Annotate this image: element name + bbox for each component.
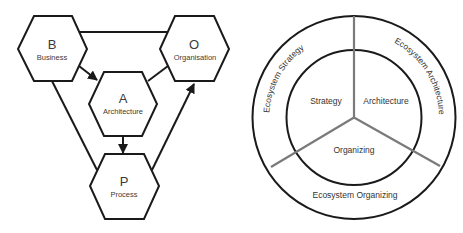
- ecosystem-ring-diagram: Strategy Architecture Organizing Ecosyst…: [253, 16, 456, 219]
- diagram-canvas: B Business O Organisation A Architecture…: [0, 0, 463, 233]
- node-process: P Process: [90, 154, 159, 219]
- diagram-svg: B Business O Organisation A Architecture…: [0, 0, 463, 233]
- node-letter: B: [48, 37, 57, 52]
- edge-p-o-arrow: [152, 84, 194, 170]
- divider-lower-left: [271, 118, 354, 168]
- segment-label-strategy: Strategy: [310, 96, 342, 106]
- segment-label-organizing: Organizing: [333, 145, 374, 155]
- node-architecture: A Architecture: [89, 72, 157, 136]
- edge-b-a-arrow: [79, 66, 97, 80]
- edge-a-o: [148, 66, 168, 81]
- ring-label-ecosystem-organizing: Ecosystem Organizing: [312, 190, 397, 200]
- node-letter: P: [120, 174, 129, 189]
- edge-b-p: [52, 81, 97, 170]
- divider-lower-right: [354, 118, 440, 167]
- segment-label-architecture: Architecture: [363, 96, 409, 106]
- node-letter: A: [119, 91, 128, 106]
- baop-diagram: B Business O Organisation A Architecture…: [18, 16, 229, 219]
- node-label: Business: [37, 53, 68, 62]
- node-organisation: O Organisation: [160, 16, 229, 81]
- node-label: Organisation: [174, 53, 217, 62]
- node-label: Architecture: [103, 107, 143, 116]
- node-label: Process: [110, 190, 137, 199]
- node-business: B Business: [18, 16, 87, 81]
- node-letter: O: [189, 37, 199, 52]
